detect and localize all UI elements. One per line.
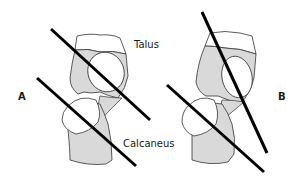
foot-bone-axis-diagram: Talus Calcaneus A B (0, 0, 300, 180)
panel-a-label: A (18, 92, 26, 102)
panel-b-label: B (278, 92, 286, 102)
calcaneus-label: Calcaneus (123, 139, 175, 149)
panel-a-drawing (62, 34, 130, 164)
talus-label: Talus (134, 40, 159, 50)
diagram-canvas (0, 0, 300, 180)
